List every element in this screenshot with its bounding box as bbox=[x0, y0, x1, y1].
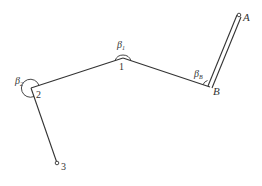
angle-subscript: 1 bbox=[122, 45, 125, 51]
point-3-marker bbox=[55, 161, 59, 165]
angle-label-1: β1 bbox=[116, 39, 125, 51]
angle-subscript: 2 bbox=[20, 81, 23, 87]
point-1-label: 1 bbox=[119, 61, 124, 72]
point-A-marker bbox=[237, 13, 241, 17]
angle-subscript: B bbox=[199, 74, 203, 80]
point-3-label: 3 bbox=[61, 161, 66, 172]
svg-text:β2: β2 bbox=[14, 75, 23, 87]
edge-1-2 bbox=[31, 58, 123, 88]
point-2-label: 2 bbox=[36, 89, 41, 100]
edge-A-B bbox=[208, 15, 241, 88]
traverse-diagram: A B 1 2 3 β1 β2 βB bbox=[0, 0, 262, 186]
svg-text:β1: β1 bbox=[116, 39, 125, 51]
angle-label-B: βB bbox=[193, 68, 203, 80]
svg-text:βB: βB bbox=[193, 68, 203, 80]
angle-label-2: β2 bbox=[14, 75, 23, 87]
point-B-label: B bbox=[213, 85, 220, 97]
edge-2-3 bbox=[31, 88, 57, 163]
point-A-label: A bbox=[242, 11, 250, 23]
angle-arc-B bbox=[203, 81, 208, 85]
